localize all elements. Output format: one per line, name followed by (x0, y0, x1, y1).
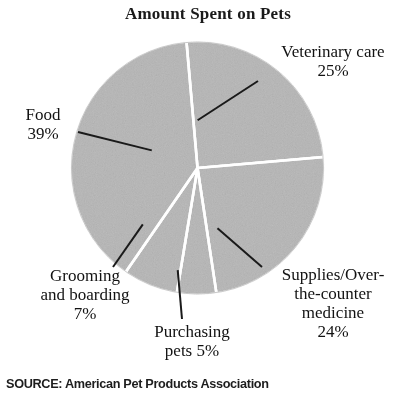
pie-label-food: Food 39% (6, 105, 80, 143)
chart-title: Amount Spent on Pets (0, 4, 416, 24)
source-note: SOURCE: American Pet Products Associatio… (6, 376, 269, 391)
pie-label-purchasing-pets: Purchasing pets 5% (133, 322, 251, 360)
pie-label-grooming-and-boarding: Grooming and boarding 7% (12, 266, 158, 323)
pie-chart-figure: Amount Spent on Pets (0, 0, 416, 402)
pie-label-veterinary-care: Veterinary care 25% (253, 42, 413, 80)
pie-label-supplies-otc-medicine: Supplies/Over- the-counter medicine 24% (258, 265, 408, 341)
